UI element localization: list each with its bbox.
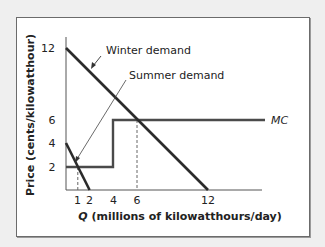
x-axis-label-rest: (millions of kilowatthours/day) xyxy=(88,210,282,223)
winter-demand-label: Winter demand xyxy=(106,44,191,57)
y-tick-6: 6 xyxy=(49,114,56,127)
chart-canvas: Winter demand Summer demand MC 12 6 4 2 … xyxy=(0,0,325,247)
x-axis-label: Q (millions of kilowatthours/day) xyxy=(78,210,282,223)
summer-arrowhead-icon xyxy=(75,156,80,163)
y-tick-2: 2 xyxy=(49,161,56,174)
x-tick-2: 2 xyxy=(86,194,93,207)
x-tick-12: 12 xyxy=(201,194,215,207)
x-tick-6: 6 xyxy=(134,194,141,207)
x-axis-label-q: Q xyxy=(78,210,87,223)
y-axis-label: Price (cents/kilowatthour) xyxy=(24,34,37,196)
x-tick-4: 4 xyxy=(110,194,117,207)
mc-line xyxy=(66,120,265,167)
y-tick-4: 4 xyxy=(49,137,56,150)
y-tick-12: 12 xyxy=(41,42,55,55)
x-tick-1: 1 xyxy=(74,194,81,207)
mc-label: MC xyxy=(271,114,288,127)
summer-demand-label: Summer demand xyxy=(129,69,224,82)
